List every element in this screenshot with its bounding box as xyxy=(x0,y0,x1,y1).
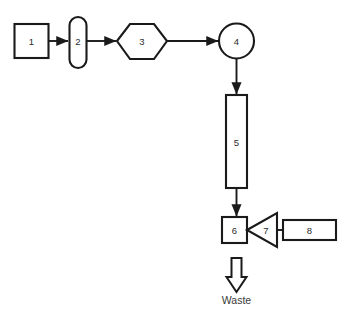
node-6[interactable]: 6 xyxy=(222,217,247,243)
node-1[interactable]: 1 xyxy=(15,24,49,58)
waste-label: Waste xyxy=(222,294,252,306)
node-8-label: 8 xyxy=(307,225,312,236)
waste-outlet: Waste xyxy=(222,258,252,306)
node-7-shape xyxy=(247,213,277,247)
node-2-label: 2 xyxy=(75,36,80,47)
waste-arrow-icon xyxy=(227,258,247,292)
process-flow-diagram: 1 2 3 4 5 6 7 xyxy=(0,0,340,321)
node-7[interactable]: 7 xyxy=(247,213,277,247)
node-1-label: 1 xyxy=(29,36,34,47)
node-4[interactable]: 4 xyxy=(219,24,254,59)
node-5-label: 5 xyxy=(234,137,239,148)
node-3[interactable]: 3 xyxy=(117,24,167,59)
node-4-label: 4 xyxy=(234,36,239,47)
node-2[interactable]: 2 xyxy=(70,17,87,68)
diagram-canvas: 1 2 3 4 5 6 7 xyxy=(0,0,340,321)
node-8[interactable]: 8 xyxy=(283,220,336,240)
node-3-label: 3 xyxy=(139,36,144,47)
node-6-label: 6 xyxy=(232,225,237,236)
node-7-label: 7 xyxy=(263,225,268,236)
node-5[interactable]: 5 xyxy=(226,95,247,188)
